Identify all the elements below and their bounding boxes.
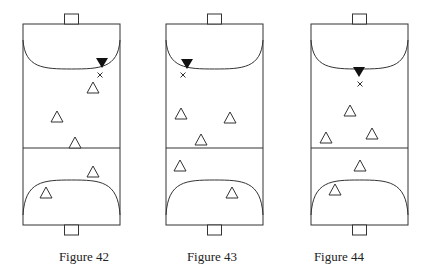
figure-44 [311,14,408,235]
attacker-marker-icon [195,134,207,145]
defender-marker-icon [96,58,108,68]
figure-44-caption: Figure 44 [289,249,389,265]
court-boundary [23,24,120,225]
attacker-marker-icon [354,160,366,171]
attacker-marker-icon [344,105,356,116]
goal-area-arc-top [166,40,263,69]
attacker-marker-icon [226,187,238,198]
attacker-marker-icon [51,111,63,122]
attacker-marker-icon [175,108,187,119]
x-mark-icon [358,82,363,87]
goal-top [208,14,222,24]
attacker-marker-icon [366,128,378,139]
attacker-marker-icon [40,187,52,198]
goal-top [65,14,79,24]
attacker-marker-icon [87,166,99,177]
court-boundary [166,24,263,225]
goal-area-arc-bottom [311,180,408,215]
x-mark-icon [98,73,103,78]
goal-top [353,14,367,24]
goal-area-arc-bottom [166,180,263,215]
figure-43 [166,14,263,235]
goal-area-arc-bottom [23,180,120,215]
figure-43-caption: Figure 43 [162,249,262,265]
attacker-marker-icon [174,160,186,171]
attacker-marker-icon [320,132,332,143]
goal-bottom [353,225,367,235]
court-boundary [311,24,408,225]
attacker-marker-icon [329,184,341,195]
x-mark-icon [181,73,186,78]
defender-marker-icon [353,67,365,77]
attacker-marker-icon [69,137,81,148]
attacker-marker-icon [224,112,236,123]
figures-canvas [0,0,427,270]
goal-bottom [208,225,222,235]
figure-42-caption: Figure 42 [34,249,134,265]
figure-42 [23,14,120,235]
attacker-marker-icon [87,82,99,93]
goal-area-arc-top [23,40,120,69]
goal-area-arc-top [311,40,408,69]
goal-bottom [65,225,79,235]
